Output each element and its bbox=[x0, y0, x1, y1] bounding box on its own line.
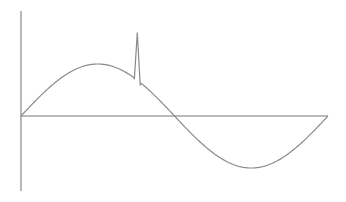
sine-curve-line bbox=[21, 33, 328, 168]
chart bbox=[0, 0, 346, 202]
